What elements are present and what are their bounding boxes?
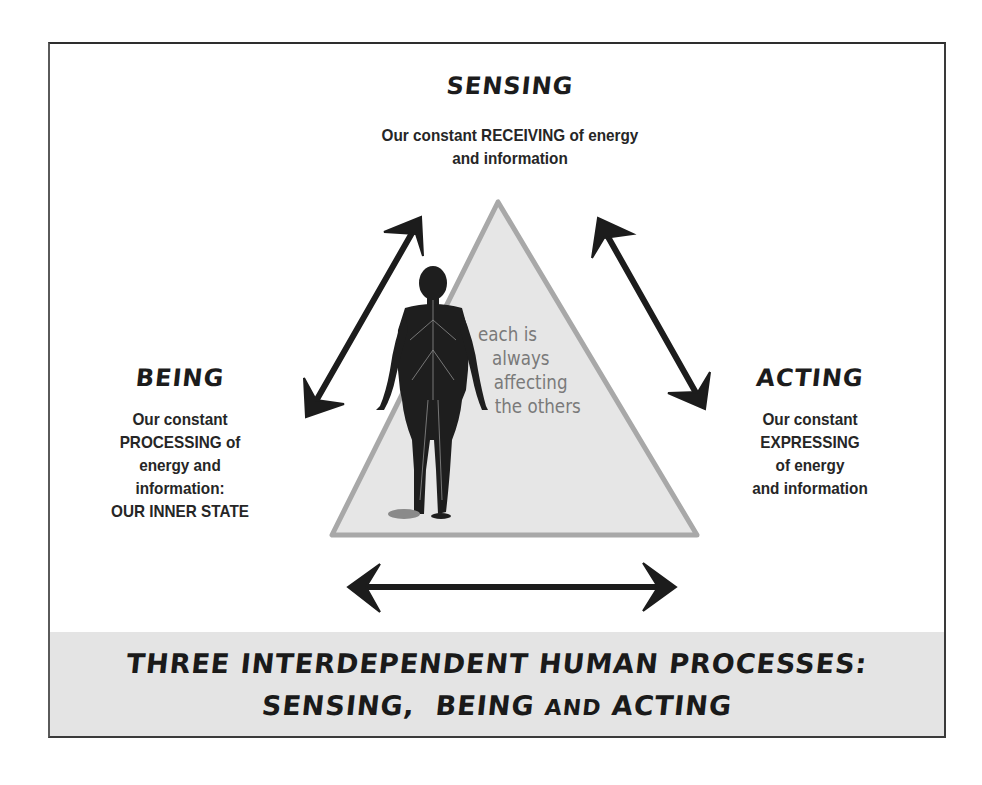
- being-line: PROCESSING of: [90, 431, 270, 454]
- title-being: BEING: [434, 690, 536, 721]
- acting-line: Our constant: [720, 408, 900, 431]
- center-caption-line: each is: [478, 322, 581, 346]
- acting-heading: ACTING: [719, 364, 902, 392]
- title-line-2: SENSING, BEING AND ACTING: [46, 690, 947, 721]
- sensing-description: Our constant RECEIVING of energy and inf…: [339, 124, 681, 170]
- acting-line: and information: [720, 477, 900, 500]
- sensing-heading: SENSING: [389, 72, 632, 100]
- center-caption-line: affecting: [478, 370, 581, 394]
- being-line: OUR INNER STATE: [90, 500, 270, 523]
- title-line-1: THREE INTERDEPENDENT HUMAN PROCESSES:: [46, 648, 947, 679]
- title-sensing: SENSING,: [260, 690, 416, 721]
- title-and: AND: [543, 695, 602, 720]
- acting-line: EXPRESSING: [720, 431, 900, 454]
- being-description: Our constant PROCESSING of energy and in…: [90, 408, 270, 523]
- center-caption-line: the others: [478, 394, 581, 418]
- being-line: information:: [90, 477, 270, 500]
- being-heading: BEING: [89, 364, 272, 392]
- title-acting: ACTING: [610, 690, 733, 721]
- double-arrow-icon: [592, 218, 710, 409]
- being-line: energy and: [90, 454, 270, 477]
- acting-description: Our constant EXPRESSING of energy and in…: [720, 408, 900, 500]
- center-caption-line: always: [478, 346, 581, 370]
- sensing-line: Our constant RECEIVING of energy: [339, 124, 681, 147]
- being-line: Our constant: [90, 408, 270, 431]
- double-arrow-icon: [348, 563, 676, 612]
- acting-line: of energy: [720, 454, 900, 477]
- sensing-line: and information: [339, 147, 681, 170]
- center-caption: each is always affecting the others: [478, 322, 581, 418]
